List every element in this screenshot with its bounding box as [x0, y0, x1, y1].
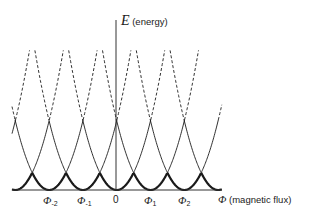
flux-label-text: (magnetic flux) — [229, 194, 291, 205]
tick-label: Φ2 — [178, 195, 190, 207]
dashed-branch — [49, 50, 63, 120]
envelope-segment — [32, 173, 65, 190]
energy-flux-diagram — [0, 0, 316, 215]
flux-symbol: Φ — [218, 193, 226, 205]
parabola-segment — [150, 120, 218, 190]
parabola-segment — [83, 120, 151, 190]
tick-subscript: 1 — [152, 200, 156, 207]
tick-label: Φ1 — [144, 195, 156, 207]
parabola-segment — [15, 120, 83, 190]
envelope-segment — [12, 173, 32, 190]
ground-state-envelope — [12, 173, 222, 190]
energy-symbol: E — [121, 13, 130, 28]
parabola-segment — [12, 120, 16, 134]
envelope-segment — [66, 173, 100, 190]
tick-subscript: 2 — [186, 200, 190, 207]
dashed-branch — [117, 50, 131, 120]
dashed-parabola-branches — [12, 50, 222, 120]
energy-axis-label: E (energy) — [121, 14, 168, 28]
parabola-segment — [12, 121, 49, 190]
energy-label-text: (energy) — [132, 16, 167, 27]
dashed-branch — [83, 50, 97, 120]
dashed-branch — [170, 50, 184, 120]
solid-parabola-branches — [12, 120, 222, 190]
dashed-branch — [16, 50, 30, 120]
dashed-branch — [69, 50, 83, 120]
dashed-branch — [185, 50, 199, 120]
parabola-segment — [49, 120, 117, 190]
envelope-segment — [134, 173, 168, 190]
tick-subscript: -1 — [85, 200, 91, 207]
dashed-branch — [151, 50, 165, 120]
dashed-branch — [103, 50, 117, 120]
parabola-segment — [117, 120, 185, 190]
tick-label: Φ-2 — [43, 195, 58, 207]
envelope-segment — [100, 173, 134, 190]
dashed-branch — [218, 105, 222, 120]
dashed-branch — [136, 50, 150, 120]
dashed-branch — [12, 107, 15, 120]
tick-label: Φ-1 — [77, 195, 92, 207]
envelope-segment — [201, 173, 222, 190]
dashed-branch — [35, 50, 49, 120]
tick-subscript: -2 — [51, 200, 57, 207]
flux-axis-label: Φ (magnetic flux) — [218, 194, 291, 205]
envelope-segment — [167, 173, 201, 190]
tick-label: 0 — [113, 195, 119, 205]
